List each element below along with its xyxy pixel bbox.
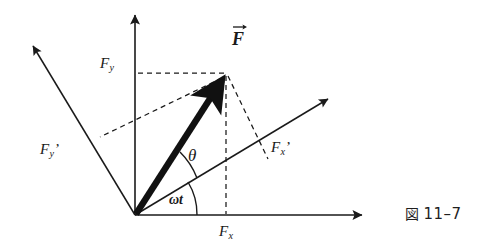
figure-caption-number: 11–7 [424, 205, 462, 223]
figure-caption-kanji: 図 [405, 203, 420, 223]
x-prime-axis [135, 99, 328, 215]
fx-prime-label: Fx’ [271, 140, 291, 157]
fy-label: Fy [100, 56, 114, 73]
fy-label-base: F [100, 55, 109, 71]
fx-prime-label-sub: x [281, 146, 286, 157]
y-prime-axis [33, 46, 135, 215]
force-vector-label-text: F [232, 29, 244, 49]
omega-t-angle-label: ωt [169, 193, 183, 207]
fy-prime-label-sub: y [50, 148, 55, 159]
fx-label-base: F [219, 223, 228, 239]
fy-prime-label-mark: ’ [55, 141, 60, 157]
fx-prime-label-mark: ’ [286, 139, 291, 155]
fx-label-sub: x [229, 230, 234, 241]
omega-t-arc [188, 182, 197, 215]
vector-arrow-icon [233, 23, 247, 30]
fy-prime-label: Fy’ [40, 142, 60, 159]
fy-label-sub: y [110, 62, 115, 73]
fx-label: Fx [219, 224, 233, 241]
fixed-axes-group [135, 15, 362, 215]
force-vector-label: F [232, 28, 244, 48]
fy-prime-label-base: F [40, 141, 49, 157]
figure-container: F Fy Fx Fx’ Fy’ θ ωt 図11–7 [0, 0, 487, 250]
theta-angle-label: θ [188, 147, 196, 164]
fx-prime-label-base: F [271, 139, 280, 155]
figure-caption: 図11–7 [405, 203, 462, 223]
rotating-axes-group [33, 46, 328, 215]
